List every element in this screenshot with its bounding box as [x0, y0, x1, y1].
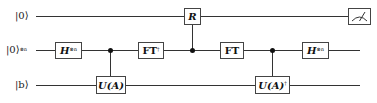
gate-label: H — [60, 45, 69, 56]
gate-sup: † — [284, 80, 287, 86]
gate-label: U(A) — [258, 80, 284, 91]
control-dot-r — [190, 48, 195, 53]
wire-input — [36, 85, 360, 86]
meter-dial-icon — [349, 9, 370, 24]
gate-label: H — [307, 45, 316, 56]
qubit-label-clock: |0⟩⊗n — [6, 44, 27, 56]
gate-ft-dagger: FT† — [138, 42, 164, 59]
ket-label: |0⟩ — [15, 10, 29, 21]
gate-label: U(A) — [98, 80, 124, 91]
qubit-label-ancilla: |0⟩ — [15, 10, 29, 22]
control-line-uadag — [272, 50, 273, 76]
gate-u-a-dagger: U(A)† — [255, 76, 290, 94]
gate-ft: FT — [220, 42, 244, 59]
control-line-r — [192, 25, 193, 50]
gate-label: R — [188, 11, 196, 22]
gate-label: FT — [142, 45, 157, 56]
gate-label: FT — [225, 45, 240, 56]
gate-hadamard-2: H⊗n — [302, 42, 329, 59]
gate-sup: ⊗n — [70, 46, 77, 52]
gate-u-a: U(A) — [96, 76, 126, 94]
control-dot-uadag — [270, 48, 275, 53]
gate-hadamard-1: H⊗n — [55, 42, 82, 59]
tensor-power: ⊗n — [20, 46, 27, 52]
ket-label: |0⟩ — [6, 44, 20, 55]
ket-label: |b⟩ — [15, 79, 29, 90]
measurement-meter-icon — [348, 8, 371, 25]
qubit-label-input: |b⟩ — [15, 79, 29, 91]
gate-sup: ⊗n — [317, 46, 324, 52]
control-dot-ua — [108, 48, 113, 53]
gate-sup: † — [157, 46, 160, 52]
control-line-ua — [110, 50, 111, 76]
gate-r: R — [184, 8, 201, 25]
